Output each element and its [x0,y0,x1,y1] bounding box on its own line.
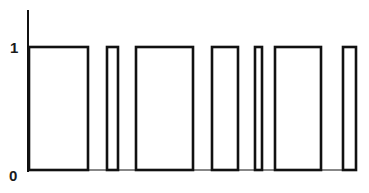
pulse-1 [29,47,88,170]
pulse-6 [275,47,321,170]
pulse-4 [212,47,238,170]
pulse-2 [107,47,118,170]
pulse-3 [136,47,193,170]
pulse-5 [255,47,262,170]
y-tick-label-1: 1 [10,39,18,56]
pulse-chart: 1 0 [0,0,369,193]
pulse-7 [343,47,356,170]
pulse-group [29,47,356,170]
y-tick-label-0: 0 [9,167,17,184]
